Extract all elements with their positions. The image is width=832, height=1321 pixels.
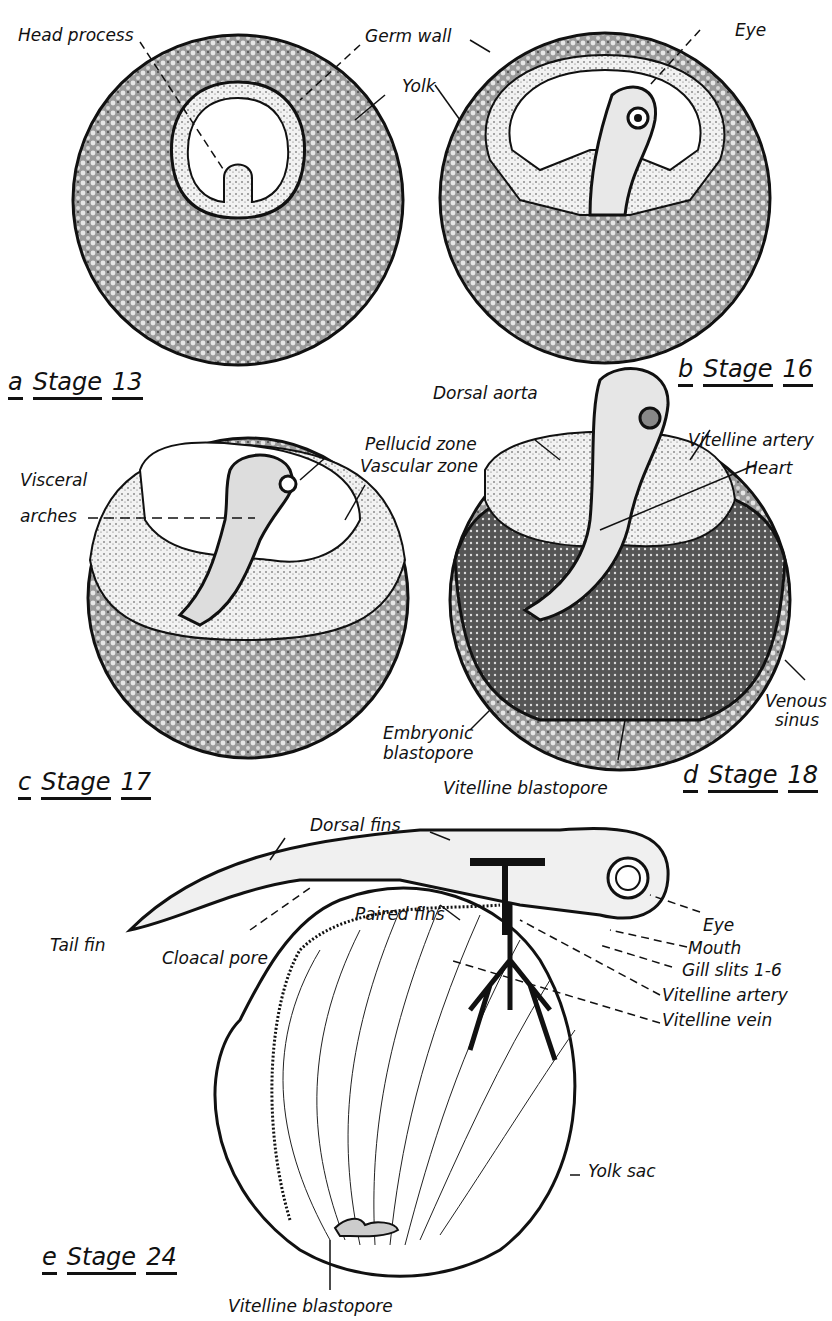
label-germ-wall: Germ wall <box>365 28 451 45</box>
label-yolk: Yolk <box>402 78 436 95</box>
label-venous: Venous <box>765 693 827 710</box>
label-sinus: sinus <box>775 712 819 729</box>
label-eye-b: Eye <box>735 22 766 39</box>
embryo-illustrations <box>0 0 832 1321</box>
panel-d-embryo <box>450 369 805 770</box>
label-arches: arches <box>20 508 77 525</box>
panel-e-embryo <box>130 828 700 1290</box>
label-eye-e: Eye <box>703 917 734 934</box>
label-vitelline-artery-e: Vitelline artery <box>662 987 788 1004</box>
label-cloacal-pore: Cloacal pore <box>162 950 268 967</box>
label-vascular-zone: Vascular zone <box>360 458 478 475</box>
label-yolk-sac: Yolk sac <box>588 1163 656 1180</box>
label-paired-fins: Paired fins <box>355 906 445 923</box>
label-vitelline-artery-d: Vitelline artery <box>688 432 814 449</box>
stage-label-e: eStage24 <box>42 1245 187 1275</box>
label-embryonic: Embryonic <box>383 725 473 742</box>
label-blastopore: blastopore <box>383 745 474 762</box>
stage-label-b: bStage16 <box>678 357 823 387</box>
label-vitelline-blastopore-e: Vitelline blastopore <box>228 1298 393 1315</box>
stage-label-c: cStage17 <box>18 770 161 800</box>
label-heart: Heart <box>745 460 792 477</box>
label-tail-fin: Tail fin <box>50 937 106 954</box>
label-vitelline-vein: Vitelline vein <box>662 1012 772 1029</box>
label-dorsal-aorta: Dorsal aorta <box>433 385 538 402</box>
label-visceral: Visceral <box>20 472 87 489</box>
stage-label-a: aStage13 <box>8 370 153 400</box>
label-vitelline-blastopore-d: Vitelline blastopore <box>443 780 608 797</box>
panel-a-embryo <box>73 35 403 365</box>
label-dorsal-fins: Dorsal fins <box>310 817 401 834</box>
label-gill-slits: Gill slits 1-6 <box>682 962 782 979</box>
stage-label-d: dStage18 <box>683 763 828 793</box>
label-mouth: Mouth <box>688 940 741 957</box>
label-pellucid-zone: Pellucid zone <box>365 436 477 453</box>
panel-c-embryo <box>88 438 408 758</box>
panel-b-embryo <box>435 30 770 363</box>
label-head-process: Head process <box>18 27 134 44</box>
